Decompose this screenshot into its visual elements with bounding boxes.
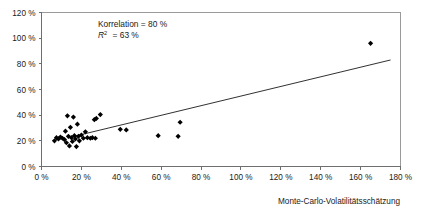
x-tick-label: 180 % [389,173,412,182]
x-axis-title: Monte-Carlo-Volatilitätsschätzung [278,197,400,206]
data-point [156,133,161,138]
data-point [124,127,129,132]
x-tick-label: 20 % [72,173,91,182]
data-point [118,127,123,132]
x-tick-label: 60 % [152,173,171,182]
data-point [98,112,103,117]
y-tick-label: 20 % [17,137,36,146]
x-tick-label: 140 % [309,173,332,182]
chart-canvas: 0 %20 %40 %60 %80 %100 %120 % 0 %20 %40 … [0,0,422,211]
data-point [176,134,181,139]
y-axis-ticks: 0 %20 %40 %60 %80 %100 %120 % [12,9,41,172]
y-tick-label: 100 % [12,34,35,43]
x-tick-label: 100 % [229,173,252,182]
y-tick-label: 80 % [17,60,36,69]
regression-trend-line [71,60,390,137]
y-tick-label: 60 % [17,86,36,95]
data-point [368,41,373,46]
x-tick-label: 80 % [192,173,211,182]
trend-line-group [71,60,390,137]
y-tick-label: 0 % [21,163,35,172]
r-squared-annotation: R2 = 63 % [98,30,139,40]
data-point [63,129,68,134]
x-tick-label: 160 % [349,173,372,182]
data-point [74,144,79,149]
data-point [68,125,73,130]
data-point [75,122,80,127]
data-point [65,113,70,118]
scatter-chart: 0 %20 %40 %60 %80 %100 %120 % 0 %20 %40 … [0,0,422,211]
x-tick-label: 40 % [112,173,131,182]
x-axis-ticks: 0 %20 %40 %60 %80 %100 %120 %140 %160 %1… [34,167,412,182]
plot-frame [42,13,401,167]
data-point [178,120,183,125]
x-tick-label: 120 % [269,173,292,182]
x-tick-label: 0 % [34,173,48,182]
statistics-annotation: Korrelation = 80 % R2 = 63 % [98,19,168,40]
data-point [71,114,76,119]
data-points-group [52,41,373,150]
correlation-annotation: Korrelation = 80 % [98,19,168,29]
y-tick-label: 120 % [12,9,35,18]
y-tick-label: 40 % [17,111,36,120]
